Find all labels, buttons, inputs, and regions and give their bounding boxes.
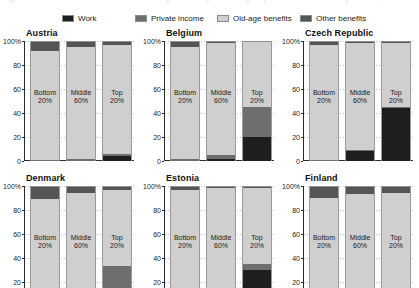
panel-title: Belgium — [166, 28, 202, 38]
bar-middle[interactable]: Middle60% — [66, 41, 96, 161]
bar-segment-old-age-benefits — [171, 190, 199, 288]
bar-segment-private-income — [346, 150, 374, 151]
plot-area: 100%806040200Bottom20%Middle60%Top20% — [164, 41, 274, 161]
y-axis-tick-label: 40 — [153, 255, 161, 262]
legend-item-oldage: Old-age benefits — [217, 9, 292, 21]
bar-top-edge — [310, 41, 338, 42]
bar-segment-old-age-benefits — [31, 51, 59, 160]
y-axis-tick-mark — [162, 161, 164, 162]
bar-segment-old-age-benefits — [243, 41, 271, 107]
legend-swatch-oldage-icon — [217, 15, 229, 22]
bar-bottom[interactable]: Bottom20% — [170, 186, 200, 288]
y-axis-tick-label: 40 — [13, 255, 21, 262]
bar-top[interactable]: Top20% — [381, 41, 411, 161]
figure-number: Figure 3.10. — [2, 0, 50, 2]
y-axis-tick-label: 100% — [3, 183, 21, 190]
bar-top[interactable]: Top20% — [242, 41, 272, 161]
bar-segment-old-age-benefits — [103, 190, 131, 267]
y-axis-tick-label: 20 — [13, 134, 21, 141]
bar-segment-old-age-benefits — [310, 198, 338, 288]
bar-segment-private-income — [171, 159, 199, 161]
bar-segment-private-income — [382, 107, 410, 108]
y-axis-tick-label: 80 — [13, 207, 21, 214]
y-axis-tick-mark — [301, 161, 303, 162]
legend-item-work: Work — [62, 9, 97, 21]
bar-top-edge — [31, 186, 59, 187]
y-axis-tick-label: 80 — [153, 207, 161, 214]
bar-top-edge — [207, 41, 235, 42]
y-axis-line — [24, 186, 25, 288]
y-axis-line — [164, 41, 165, 161]
bar-top[interactable]: Top20% — [242, 186, 272, 288]
bar-top-edge — [382, 186, 410, 187]
y-axis-tick-label: 0 — [17, 158, 21, 165]
bar-segment-old-age-benefits — [207, 43, 235, 155]
panel-title: Denmark — [26, 173, 65, 183]
bar-segment-old-age-benefits — [207, 188, 235, 288]
panel-row-1: Austria100%806040200Bottom20%Middle60%To… — [0, 28, 419, 173]
bar-segment-other-benefits — [346, 186, 374, 194]
bar-bottom[interactable]: Bottom20% — [30, 41, 60, 161]
y-axis-tick-label: 40 — [292, 255, 300, 262]
bar-segment-work — [243, 270, 271, 288]
y-axis-tick-label: 60 — [292, 86, 300, 93]
bar-top-edge — [310, 186, 338, 187]
bar-segment-old-age-benefits — [310, 45, 338, 160]
bar-middle[interactable]: Middle60% — [345, 41, 375, 161]
plot-area: 100%806040200Bottom20%Middle60%Top20% — [24, 186, 134, 288]
bar-top[interactable]: Top20% — [381, 186, 411, 288]
bar-segment-other-benefits — [31, 41, 59, 51]
bar-top-edge — [243, 186, 271, 187]
panel-title: Austria — [26, 28, 58, 38]
legend-label-other: Other benefits — [316, 14, 366, 23]
y-axis-tick-label: 100% — [143, 38, 161, 45]
legend-item-other: Other benefits — [300, 9, 366, 21]
y-axis-tick-label: 60 — [292, 231, 300, 238]
bar-top-edge — [346, 186, 374, 187]
bar-bottom[interactable]: Bottom20% — [170, 41, 200, 161]
y-axis-tick-label: 80 — [13, 62, 21, 69]
bar-segment-old-age-benefits — [346, 194, 374, 288]
bar-bottom[interactable]: Bottom20% — [309, 186, 339, 288]
bar-segment-private-income — [67, 159, 95, 161]
y-axis-tick-label: 20 — [292, 279, 300, 286]
plot-area: 100%806040200Bottom20%Middle60%Top20% — [24, 41, 134, 161]
bar-top-edge — [103, 41, 131, 42]
y-axis-line — [164, 186, 165, 288]
bar-middle[interactable]: Middle60% — [345, 186, 375, 288]
bar-segment-other-benefits — [382, 186, 410, 193]
bar-segment-old-age-benefits — [31, 199, 59, 288]
bar-segment-work — [103, 156, 131, 161]
bar-segment-private-income — [243, 107, 271, 137]
bar-top-edge — [103, 186, 131, 187]
bar-top-edge — [207, 186, 235, 187]
legend-label-work: Work — [78, 14, 97, 23]
legend-item-private: Private income — [135, 9, 204, 21]
bar-segment-other-benefits — [31, 186, 59, 199]
y-axis-tick-label: 60 — [13, 231, 21, 238]
bar-segment-private-income — [207, 155, 235, 159]
legend-swatch-other-icon — [300, 15, 312, 22]
bar-top[interactable]: Top20% — [102, 41, 132, 161]
bar-top[interactable]: Top20% — [102, 186, 132, 288]
bar-bottom[interactable]: Bottom20% — [30, 186, 60, 288]
bar-segment-private-income — [31, 160, 59, 161]
y-axis-tick-label: 80 — [153, 62, 161, 69]
bar-top-edge — [171, 41, 199, 42]
bar-middle[interactable]: Middle60% — [66, 186, 96, 288]
bar-segment-old-age-benefits — [382, 43, 410, 107]
y-axis-tick-label: 100% — [282, 38, 300, 45]
bar-middle[interactable]: Middle60% — [206, 41, 236, 161]
y-axis-tick-label: 80 — [292, 207, 300, 214]
bar-top-edge — [67, 41, 95, 42]
y-axis-tick-mark — [22, 161, 24, 162]
panel-row-2: Denmark100%806040200Bottom20%Middle60%To… — [0, 173, 419, 288]
bar-middle[interactable]: Middle60% — [206, 186, 236, 288]
bar-segment-work — [382, 108, 410, 161]
bar-bottom[interactable]: Bottom20% — [309, 41, 339, 161]
y-axis-tick-label: 40 — [153, 110, 161, 117]
legend-label-oldage: Old-age benefits — [233, 14, 292, 23]
bar-segment-private-income — [103, 266, 131, 288]
bar-top-edge — [382, 41, 410, 42]
y-axis-tick-label: 20 — [13, 279, 21, 286]
